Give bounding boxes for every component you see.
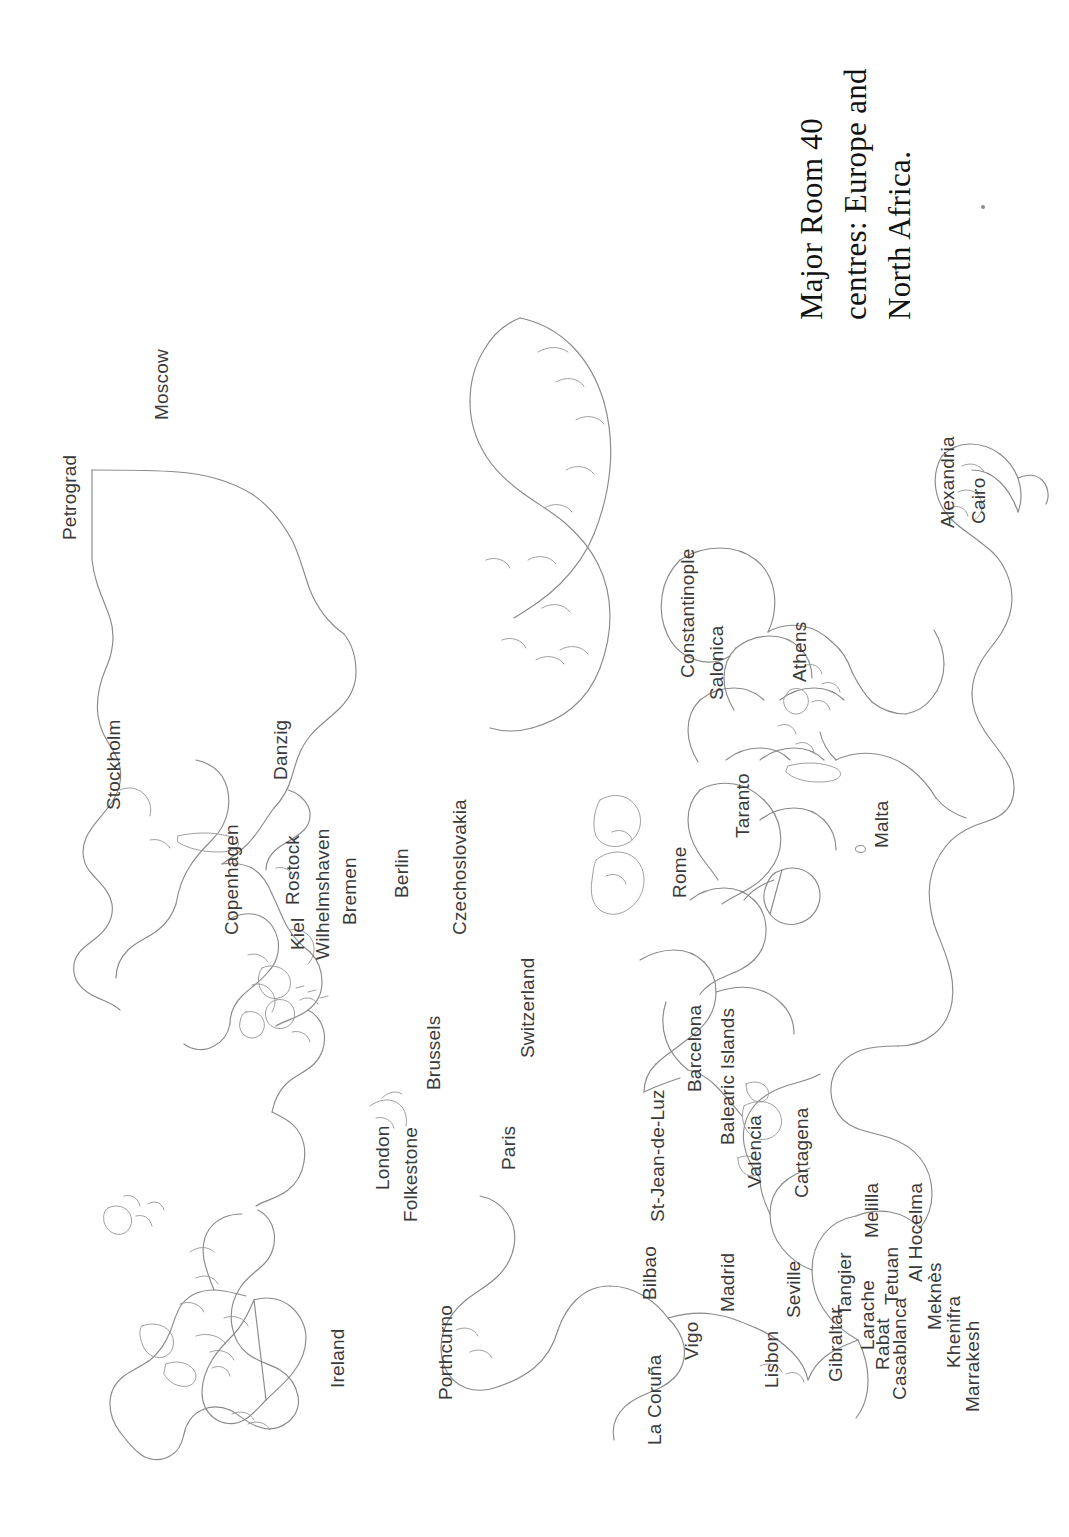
- map-label-copenhagen: Copenhagen: [222, 824, 241, 935]
- map-label-moscow: Moscow: [152, 349, 171, 420]
- map-label-rostock: Rostock: [283, 835, 302, 905]
- map-label-seville: Seville: [784, 1261, 803, 1318]
- map-label-tangier: Tangier: [835, 1252, 854, 1316]
- figure-title: Major Room 40 centres: Europe and North …: [790, 68, 922, 320]
- map-label-barcelona: Barcelona: [685, 1005, 704, 1092]
- figure-page: Petrograd Moscow Stockholm Danzig Copenh…: [0, 0, 1069, 1537]
- figure-title-line-2: centres: Europe and: [834, 68, 878, 320]
- map-label-lisbon: Lisbon: [762, 1331, 781, 1388]
- map-label-cairo: Cairo: [969, 478, 988, 524]
- map-label-kiel: Kiel: [288, 918, 307, 950]
- map-label-berlin: Berlin: [392, 848, 411, 898]
- figure-title-line-1: Major Room 40: [790, 68, 834, 320]
- malta-island-dot: [855, 845, 866, 853]
- page-speck: [981, 205, 985, 209]
- map-label-al-hocelma: Al Hocelma: [906, 1183, 925, 1282]
- map-label-stockholm: Stockholm: [104, 719, 123, 810]
- map-label-vigo: Vigo: [682, 1322, 701, 1361]
- map-label-bilbao: Bilbao: [640, 1246, 659, 1300]
- map-label-marrakesh: Marrakesh: [963, 1320, 982, 1412]
- map-label-la-coruna: La Coruña: [645, 1354, 664, 1445]
- map-label-alexandria: Alexandria: [938, 436, 957, 528]
- map-label-czechoslovakia: Czechoslovakia: [450, 799, 469, 935]
- map-label-bremen: Bremen: [340, 857, 359, 925]
- map-label-brussels: Brussels: [424, 1016, 443, 1090]
- figure-title-line-3: North Africa.: [878, 68, 922, 320]
- map-label-meknes: Meknès: [925, 1262, 944, 1330]
- map-label-salonica: Salonica: [707, 626, 726, 700]
- map-label-ireland: Ireland: [328, 1329, 347, 1389]
- map-label-folkestone: Folkestone: [401, 1127, 420, 1222]
- map-label-petrograd: Petrograd: [60, 455, 79, 540]
- map-label-paris: Paris: [499, 1126, 518, 1170]
- map-label-casablanca: Casablanca: [890, 1298, 909, 1400]
- map-label-switzerland: Switzerland: [518, 958, 537, 1058]
- map-label-taranto: Taranto: [733, 773, 752, 838]
- map-label-valencia: Valencia: [745, 1115, 764, 1188]
- map-label-khenifra: Khenifra: [944, 1296, 963, 1368]
- map-label-london: London: [373, 1125, 392, 1190]
- map-label-melilla: Melilla: [862, 1183, 881, 1238]
- map-label-rome: Rome: [670, 847, 689, 898]
- map-label-porthcurno: Porthcurno: [436, 1305, 455, 1400]
- map-label-malta: Malta: [872, 801, 891, 848]
- map-label-madrid: Madrid: [718, 1253, 737, 1312]
- map-label-gibraltar: Gibraltar: [826, 1307, 845, 1382]
- map-label-danzig: Danzig: [271, 720, 290, 780]
- map-label-athens: Athens: [790, 622, 809, 682]
- map-label-constantinople: Constantinople: [678, 548, 697, 678]
- map-label-st-jean-de-luz: St-Jean-de-Luz: [648, 1089, 667, 1222]
- map-label-balearic-islands: Balearic Islands: [718, 1008, 737, 1145]
- map-label-tetuan: Tetuan: [882, 1247, 901, 1305]
- map-label-wilhelmshaven: Wilhelmshaven: [313, 829, 332, 960]
- map-label-cartagena: Cartagena: [792, 1107, 811, 1198]
